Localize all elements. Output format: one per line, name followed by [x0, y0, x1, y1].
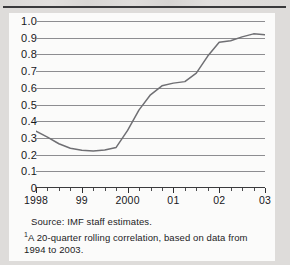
x-tick-minor	[70, 188, 71, 191]
footnote-text: A 20-quarter rolling correlation, based …	[24, 232, 248, 255]
x-tick-label: 03	[259, 194, 271, 206]
top-horizontal-rule	[3, 6, 286, 8]
x-tick-major	[219, 188, 220, 193]
y-tick-label: 0.9	[9, 33, 37, 43]
x-tick-minor	[151, 188, 152, 191]
source-note: Source: IMF staff estimates.	[31, 216, 267, 228]
x-tick-minor	[231, 188, 232, 191]
series-line	[36, 34, 265, 151]
footnote: 1A 20-quarter rolling correlation, based…	[24, 229, 267, 256]
x-tick-minor	[196, 188, 197, 191]
x-tick-minor	[93, 188, 94, 191]
x-tick-major	[173, 188, 174, 193]
page-background: 1.00.90.80.70.60.50.40.30.20.10 19989920…	[0, 0, 290, 265]
x-tick-label: 2000	[116, 194, 140, 206]
y-axis-labels: 1.00.90.80.70.60.50.40.30.20.10	[9, 21, 37, 188]
x-tick-label: 99	[76, 194, 88, 206]
x-axis-ticks	[36, 188, 265, 193]
x-tick-minor	[162, 188, 163, 191]
x-tick-major	[36, 188, 37, 193]
figure-container: 1.00.90.80.70.60.50.40.30.20.10 19989920…	[9, 13, 275, 261]
x-tick-label: 02	[213, 194, 225, 206]
y-tick-label: 0	[9, 183, 37, 193]
y-tick-label: 0.7	[9, 66, 37, 76]
x-axis-labels: 1998992000010203	[9, 194, 275, 208]
x-tick-major	[82, 188, 83, 193]
plot-area: 1.00.90.80.70.60.50.40.30.20.10 19989920…	[9, 21, 275, 206]
x-tick-minor	[59, 188, 60, 191]
x-tick-minor	[47, 188, 48, 191]
x-tick-major	[265, 188, 266, 193]
x-tick-minor	[254, 188, 255, 191]
y-tick-label: 0.8	[9, 49, 37, 59]
x-tick-minor	[208, 188, 209, 191]
y-tick-label: 0.3	[9, 133, 37, 143]
x-tick-minor	[242, 188, 243, 191]
x-tick-minor	[185, 188, 186, 191]
x-tick-minor	[105, 188, 106, 191]
y-tick-label: 0.6	[9, 83, 37, 93]
x-tick-major	[128, 188, 129, 193]
y-tick-label: 0.2	[9, 150, 37, 160]
x-tick-label: 01	[167, 194, 179, 206]
x-tick-label: 1998	[24, 194, 48, 206]
x-tick-minor	[139, 188, 140, 191]
y-tick-label: 1.0	[9, 16, 37, 26]
y-tick-label: 0.4	[9, 116, 37, 126]
y-tick-label: 0.1	[9, 166, 37, 176]
figure-notes: Source: IMF staff estimates. 1A 20-quart…	[31, 216, 267, 256]
y-tick-label: 0.5	[9, 100, 37, 110]
x-tick-minor	[116, 188, 117, 191]
data-line-chart	[36, 21, 265, 188]
